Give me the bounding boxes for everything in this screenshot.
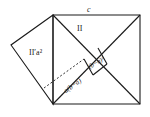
label-c: c: [87, 5, 91, 14]
label-region-II: II: [77, 24, 83, 33]
label-rectangle: a(b−a): [62, 76, 83, 95]
pythagorean-diagram: c II II′a² (b−a)² a(b−a): [0, 0, 150, 117]
label-inner-square: (b−a)²: [87, 54, 107, 70]
left-square: [11, 15, 53, 104]
label-region-II-prime: II′a²: [29, 48, 43, 57]
